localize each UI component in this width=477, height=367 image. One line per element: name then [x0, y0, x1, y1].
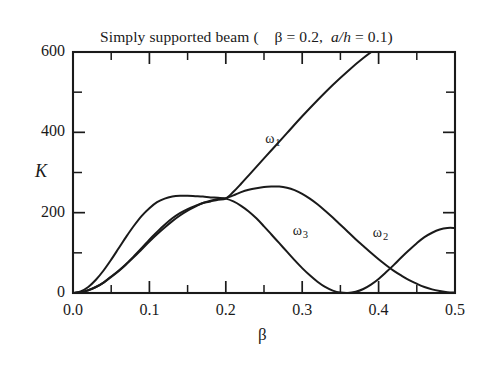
curve-label-subscript: 1	[275, 137, 280, 148]
curve-label-subscript: 2	[383, 231, 388, 242]
curve-label-subscript: 3	[303, 229, 308, 240]
curve-3	[73, 196, 455, 293]
y-axis-title: K	[35, 161, 47, 182]
x-tick-label: 0.0	[43, 301, 103, 319]
y-tick-label: 200	[10, 203, 65, 221]
x-tick-label: 0.3	[272, 301, 332, 319]
x-tick-label: 0.1	[119, 301, 179, 319]
y-tick-label: 0	[10, 283, 65, 301]
data-curves	[73, 33, 455, 293]
curve-label-2: ω2	[373, 225, 387, 241]
x-tick-label: 0.2	[196, 301, 256, 319]
curve-2	[73, 186, 455, 293]
curve-label-1: ω1	[265, 131, 279, 147]
x-axis-title: β	[258, 325, 267, 345]
axis-ticks	[73, 52, 455, 293]
curve-label-symbol: ω	[373, 225, 382, 240]
curve-1	[73, 33, 402, 293]
curve-label-symbol: ω	[265, 131, 274, 146]
x-tick-label: 0.4	[349, 301, 409, 319]
curve-label-symbol: ω	[293, 223, 302, 238]
plot-frame	[73, 52, 455, 293]
y-tick-label: 600	[10, 42, 65, 60]
chart-figure: Simply supported beam ( β = 0.2, a/h = 0…	[0, 0, 477, 367]
x-tick-label: 0.5	[425, 301, 477, 319]
y-tick-label: 400	[10, 122, 65, 140]
curve-label-3: ω3	[293, 223, 307, 239]
